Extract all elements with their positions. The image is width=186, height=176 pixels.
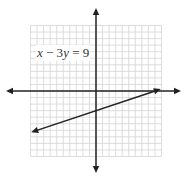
equation-label: x − 3y = 9 <box>36 45 90 61</box>
coordinate-plane <box>0 0 186 176</box>
y-axis-up-arrow-icon <box>93 8 99 15</box>
equation-op: − 3 <box>43 45 63 60</box>
x-axis-right-arrow-icon <box>174 88 181 94</box>
y-axis-down-arrow-icon <box>93 166 99 173</box>
x-axis-left-arrow-icon <box>6 88 13 94</box>
equation-rhs: = 9 <box>69 45 89 60</box>
